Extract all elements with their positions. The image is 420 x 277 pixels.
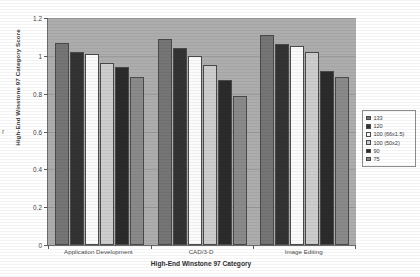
x-axis-category-label: Image Editing (252, 248, 355, 255)
x-axis-title: High-End Winstone 97 Category (47, 260, 355, 267)
y-axis-tick-label: 0.6 (33, 128, 42, 135)
legend-item-label: 75 (374, 156, 380, 162)
y-axis-tick-label: 0.2 (33, 204, 42, 211)
plot-area: 00.20.40.60.811.2 (47, 18, 356, 246)
chart-figure: r High-End Winstone 97 Category Score 00… (0, 0, 420, 277)
bar (188, 56, 202, 245)
bar (260, 35, 274, 245)
legend-swatch-icon (366, 140, 371, 145)
bar (173, 48, 187, 245)
bar (305, 52, 319, 245)
bar (70, 52, 84, 245)
y-axis-title: High-End Winstone 97 Category Score (14, 3, 21, 173)
y-axis-tick-label: 0.4 (33, 166, 42, 173)
bar (115, 67, 129, 245)
bar (55, 43, 69, 245)
legend-swatch-icon (366, 132, 371, 137)
x-axis-tick (355, 245, 356, 249)
bar (218, 80, 232, 245)
bar (158, 39, 172, 245)
legend-item-label: 90 (374, 148, 380, 154)
bar-group (253, 18, 356, 245)
legend-item[interactable]: 100 (66x1.5) (366, 130, 413, 138)
bar (290, 46, 304, 245)
bar (335, 77, 349, 245)
bar (130, 77, 144, 245)
y-axis-tick-label: 0.8 (33, 90, 42, 97)
legend-item-label: 100 (66x1.5) (374, 131, 405, 137)
legend-swatch-icon (366, 124, 371, 129)
legend: 133120100 (66x1.5)100 (50x2)9075 (362, 110, 416, 167)
legend-swatch-icon (366, 116, 371, 121)
legend-item-label: 100 (50x2) (374, 140, 400, 146)
legend-item-label: 120 (374, 123, 383, 129)
bar (85, 54, 99, 245)
y-axis-tick-label: 1.2 (33, 15, 42, 22)
bar-group (48, 18, 151, 245)
bar (320, 71, 334, 245)
x-axis-category-label: Application Development (47, 248, 150, 255)
x-axis-category-label: CAD/3-D (150, 248, 253, 255)
legend-swatch-icon (366, 149, 371, 154)
bar (233, 96, 247, 245)
bar-group (151, 18, 254, 245)
bar (203, 65, 217, 245)
legend-item[interactable]: 90 (366, 147, 413, 155)
bar (100, 63, 114, 245)
stray-scan-mark: r (2, 128, 4, 135)
y-axis-tick-label: 1 (38, 52, 42, 59)
x-axis-category-labels: Application DevelopmentCAD/3-DImage Edit… (47, 248, 355, 255)
legend-swatch-icon (366, 157, 371, 162)
legend-item[interactable]: 75 (366, 155, 413, 163)
legend-item[interactable]: 133 (366, 114, 413, 122)
legend-item-label: 133 (374, 115, 383, 121)
legend-item[interactable]: 100 (50x2) (366, 139, 413, 147)
bar-groups (48, 18, 356, 245)
bar (275, 44, 289, 245)
legend-item[interactable]: 120 (366, 122, 413, 130)
y-axis-tick-label: 0 (38, 242, 42, 249)
